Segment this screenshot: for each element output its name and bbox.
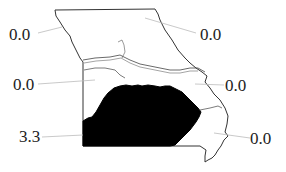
value-label-northeast: 0.0: [200, 26, 221, 43]
value-label-northwest: 0.0: [9, 26, 30, 43]
value-label-west-central: 0.0: [13, 76, 34, 93]
leader-line-southwest: [42, 135, 83, 137]
value-label-east-central: 0.0: [225, 77, 246, 94]
leader-line-northwest: [38, 27, 62, 33]
value-label-southeast: 0.0: [250, 130, 271, 147]
value-label-southwest: 3.3: [19, 128, 40, 145]
